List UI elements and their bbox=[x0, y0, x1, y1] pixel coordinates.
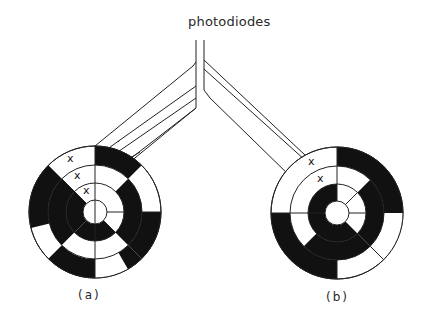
x-marker: x bbox=[308, 155, 315, 168]
panel-label-a: (a) bbox=[78, 288, 101, 302]
x-marker: x bbox=[67, 152, 74, 165]
x-marker: x bbox=[324, 187, 331, 200]
x-marker: x bbox=[74, 169, 81, 182]
panel-label-b: (b) bbox=[326, 290, 349, 304]
diagram-canvas: x x x x x x bbox=[0, 0, 429, 327]
x-marker: x bbox=[83, 184, 90, 197]
photodiode-leads bbox=[196, 40, 204, 108]
disc-b bbox=[271, 147, 403, 279]
x-marker: x bbox=[317, 172, 324, 185]
disc-a bbox=[29, 146, 161, 278]
